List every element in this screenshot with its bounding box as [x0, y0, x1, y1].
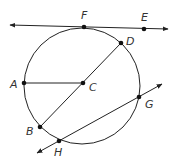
- circle-diagram: A B C D E F G H: [0, 0, 181, 161]
- label-G: G: [145, 98, 154, 111]
- label-F: F: [81, 9, 88, 22]
- label-C: C: [89, 81, 97, 94]
- point-C: [81, 81, 86, 86]
- point-B: [38, 125, 43, 130]
- point-E: [142, 27, 147, 32]
- point-F: [82, 25, 87, 30]
- label-B: B: [26, 125, 34, 138]
- label-D: D: [126, 35, 134, 48]
- point-A: [22, 81, 27, 86]
- label-E: E: [141, 11, 148, 24]
- point-D: [119, 41, 124, 46]
- label-A: A: [9, 78, 18, 91]
- point-H: [57, 139, 62, 144]
- point-G: [137, 95, 142, 100]
- secant-line-HG: [37, 84, 162, 153]
- label-H: H: [54, 146, 62, 159]
- diameter-BD: [40, 43, 121, 127]
